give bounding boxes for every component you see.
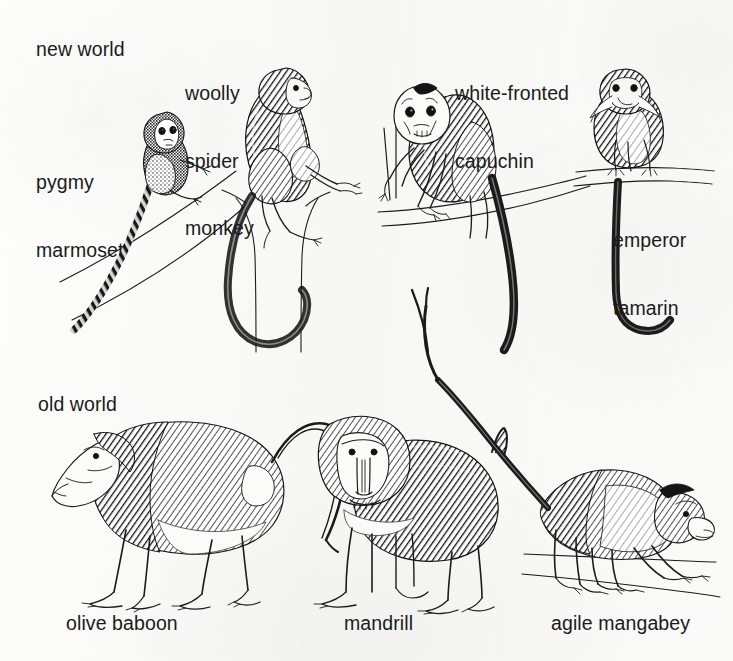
monkeys-figure: new world pygmy marmoset woolly spider m… [0, 0, 733, 661]
specimen-label-woolly-spider-monkey: woolly spider monkey [185, 37, 254, 285]
specimen-label-emperor-tamarin-line1: emperor [613, 229, 686, 252]
specimen-label-white-fronted-capuchin-line2: capuchin [455, 150, 569, 173]
specimen-label-emperor-tamarin-line2: tamarin [613, 297, 686, 320]
specimen-label-emperor-tamarin: emperor tamarin [613, 184, 686, 364]
specimen-label-white-fronted-capuchin: white-fronted capuchin [455, 37, 569, 217]
specimen-label-mandrill: mandrill [344, 612, 413, 635]
specimen-label-white-fronted-capuchin-line1: white-fronted [455, 82, 569, 105]
illustration-olive-baboon [52, 422, 346, 612]
group-label-old-world: old world [38, 393, 117, 416]
specimen-label-woolly-spider-monkey-line3: monkey [185, 217, 254, 240]
specimen-label-olive-baboon: olive baboon [66, 612, 178, 635]
specimen-label-agile-mangabey: agile mangabey [551, 612, 690, 635]
specimen-label-pygmy-marmoset-line2: marmoset [36, 239, 123, 262]
group-label-new-world: new world [36, 38, 125, 61]
specimen-label-woolly-spider-monkey-line2: spider [185, 150, 254, 173]
specimen-label-pygmy-marmoset: pygmy marmoset [36, 126, 123, 306]
illustration-mandrill [314, 416, 507, 614]
specimen-label-woolly-spider-monkey-line1: woolly [185, 82, 254, 105]
specimen-label-pygmy-marmoset-line1: pygmy [36, 171, 123, 194]
